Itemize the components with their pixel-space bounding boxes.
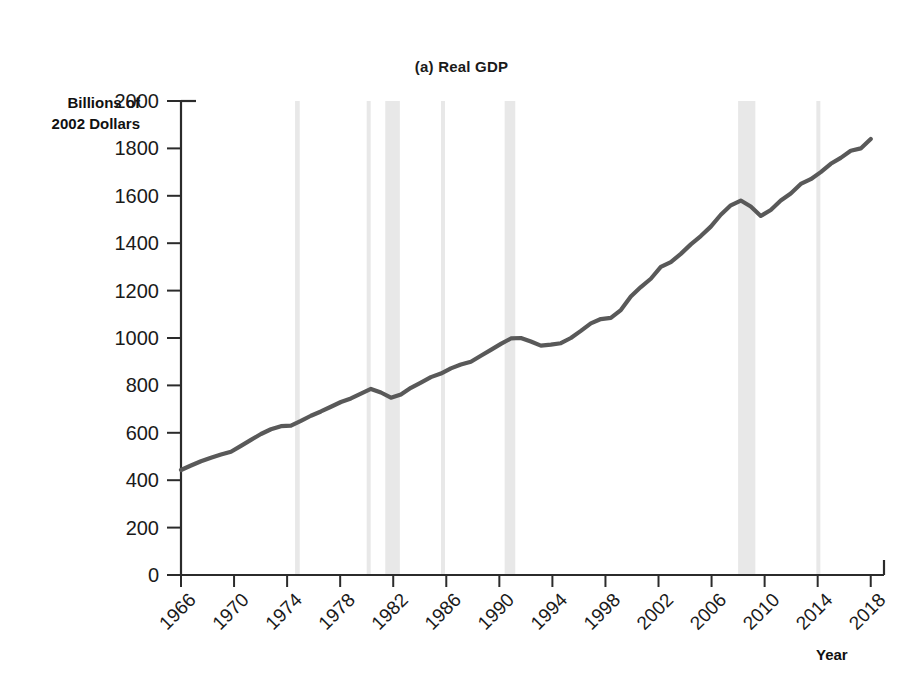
recession-band — [385, 101, 400, 575]
x-axis-tick-label: 1974 — [261, 589, 306, 634]
x-axis-tick-label: 2010 — [739, 589, 784, 634]
x-axis-tick-label: 1970 — [208, 589, 253, 634]
x-axis-tick-label: 2014 — [792, 589, 837, 634]
recession-bands-group — [295, 101, 820, 575]
x-axis-tick-label: 2002 — [633, 589, 678, 634]
y-axis-tick-label: 600 — [126, 422, 159, 444]
gdp-data-line — [181, 139, 871, 470]
x-axis-tick-label: 2006 — [686, 589, 731, 634]
y-axis-tick-label: 1800 — [115, 137, 160, 159]
y-axis-tick-label: 1600 — [115, 185, 160, 207]
x-axis-tick-label: 1990 — [473, 589, 518, 634]
x-axis-tick-label: 1978 — [314, 589, 359, 634]
y-axis-tick-label: 800 — [126, 374, 159, 396]
y-axis-ticks-group: 2000180016001400120010008006004002000 — [115, 90, 182, 586]
recession-band — [738, 101, 755, 575]
x-axis-tick-label: 2018 — [845, 589, 890, 634]
x-axis-tick-label: 1982 — [367, 589, 412, 634]
x-axis-tick-label: 1994 — [526, 589, 571, 634]
y-axis-tick-label: 200 — [126, 517, 159, 539]
y-axis-tick-label: 2000 — [115, 90, 160, 112]
x-axis-ticks-group: 1966197019741978198219861990199419982002… — [155, 575, 889, 634]
y-axis-tick-label: 1200 — [115, 280, 160, 302]
y-axis-tick-label: 0 — [148, 564, 159, 586]
y-axis-tick-label: 1000 — [115, 327, 160, 349]
recession-band — [295, 101, 300, 575]
x-axis-tick-label: 1966 — [155, 589, 200, 634]
x-axis-tick-label: 1998 — [580, 589, 625, 634]
figure-container: (a) Real GDP Billions of 2002 Dollars 20… — [0, 0, 923, 678]
y-axis-tick-label: 1400 — [115, 232, 160, 254]
recession-band — [367, 101, 371, 575]
recession-band — [441, 101, 445, 575]
y-axis-tick-label: 400 — [126, 469, 159, 491]
x-axis-label: Year — [816, 646, 848, 663]
chart-plot: 2000180016001400120010008006004002000 19… — [0, 0, 923, 678]
x-axis-tick-label: 1986 — [420, 589, 465, 634]
